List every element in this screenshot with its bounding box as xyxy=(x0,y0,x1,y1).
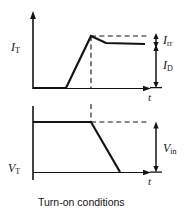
upper-x-axis-label: t xyxy=(148,92,151,103)
id-annotation-label: ID xyxy=(163,59,173,71)
upper-x-axis-label-symbol: t xyxy=(148,91,151,103)
lower-x-axis-label-symbol: t xyxy=(148,175,151,187)
upper-y-axis-label: IT xyxy=(11,41,20,53)
upper-plot-group xyxy=(30,11,162,91)
figure-caption: Turn-on conditions xyxy=(38,197,125,208)
irr-subscript: rr xyxy=(167,39,172,48)
lower-waveform-trace xyxy=(33,122,120,172)
upper-y-axis-arrowhead xyxy=(30,11,36,19)
id-dimension-arrow-up xyxy=(153,45,158,52)
waveform-drawing xyxy=(0,0,184,213)
upper-y-axis-label-subscript: T xyxy=(15,46,20,55)
irr-annotation-label: Irr xyxy=(163,34,172,46)
lower-y-axis-label-subscript: T xyxy=(15,167,20,176)
vin-dimension-arrow-up xyxy=(153,122,158,129)
lower-y-axis-label: VT xyxy=(8,162,20,174)
vin-annotation-label: Vin xyxy=(163,142,177,154)
irr-dimension-arrow-up xyxy=(153,33,158,39)
lower-x-axis-label: t xyxy=(148,176,151,187)
lower-plot-group xyxy=(33,104,162,180)
id-subscript: D xyxy=(167,64,173,73)
vin-subscript: in xyxy=(170,147,176,156)
turn-on-conditions-figure: ... xyxy=(0,0,184,213)
upper-waveform-trace xyxy=(33,36,145,88)
